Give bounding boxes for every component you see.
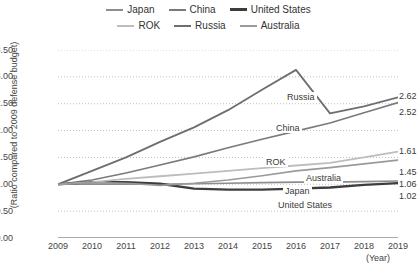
series-end-value-label: 1.61 xyxy=(399,146,417,156)
legend-item-united-states[interactable]: United States xyxy=(230,4,311,15)
legend-label: United States xyxy=(251,4,311,15)
series-end-value-label: 1.02 xyxy=(399,191,417,201)
series-inline-label: ROK xyxy=(264,157,288,167)
y-axis-title: (Ratio compared to 2009 defense budget) xyxy=(9,35,19,215)
series-inline-label: Russia xyxy=(285,92,317,102)
legend-line-swatch-icon xyxy=(240,25,257,27)
legend-label: Australia xyxy=(261,20,300,31)
legend-label: Russia xyxy=(195,20,226,31)
legend-row: ROKRussiaAustralia xyxy=(0,20,417,31)
legend-label: ROK xyxy=(138,20,160,31)
legend-line-swatch-icon xyxy=(117,25,134,27)
series-lines-svg xyxy=(58,50,398,238)
series-end-value-label: 1.06 xyxy=(399,179,417,189)
series-line-russia xyxy=(58,70,398,184)
legend-row: JapanChinaUnited States xyxy=(0,4,417,15)
x-axis-tick-label: 2019 xyxy=(378,241,417,251)
legend-line-swatch-icon xyxy=(169,9,186,11)
series-end-value-label: 2.52 xyxy=(399,107,417,117)
series-inline-label: China xyxy=(274,123,302,133)
series-end-value-label: 2.62 xyxy=(399,91,417,101)
legend-item-australia[interactable]: Australia xyxy=(240,20,300,31)
series-inline-label: Japan xyxy=(283,186,312,196)
legend-item-rok[interactable]: ROK xyxy=(117,20,160,31)
legend-item-china[interactable]: China xyxy=(169,4,216,15)
legend-item-japan[interactable]: Japan xyxy=(106,4,154,15)
legend-label: Japan xyxy=(127,4,154,15)
series-line-china xyxy=(58,103,398,185)
y-axis-tick-label: 0.00 xyxy=(0,234,13,243)
defense-budget-ratio-chart: JapanChinaUnited States ROKRussiaAustral… xyxy=(0,0,417,269)
chart-legend: JapanChinaUnited States ROKRussiaAustral… xyxy=(0,0,417,40)
legend-label: China xyxy=(190,4,216,15)
series-inline-label: United States xyxy=(276,200,334,210)
series-end-value-label: 1.45 xyxy=(399,167,417,177)
series-inline-label: Australia xyxy=(304,173,343,183)
legend-line-swatch-icon xyxy=(174,25,191,27)
legend-item-russia[interactable]: Russia xyxy=(174,20,226,31)
legend-line-swatch-icon xyxy=(230,8,247,11)
plot-area xyxy=(58,50,398,238)
legend-line-swatch-icon xyxy=(106,9,123,11)
x-axis-unit-label: (Year) xyxy=(358,253,398,263)
